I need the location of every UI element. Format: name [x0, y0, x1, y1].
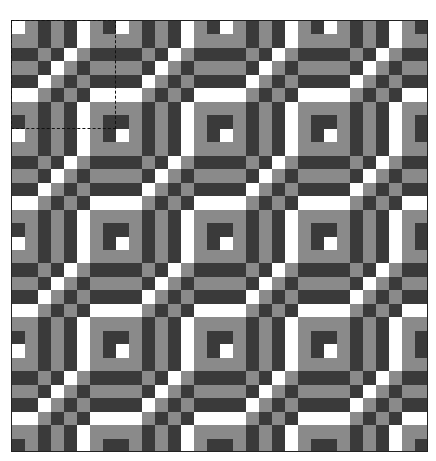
pattern-cell [337, 223, 350, 236]
pattern-cell [233, 277, 246, 290]
pattern-cell [337, 331, 350, 344]
pattern-cell [77, 169, 90, 182]
pattern-cell [64, 277, 77, 290]
pattern-cell [285, 331, 298, 344]
pattern-cell [142, 358, 155, 371]
pattern-cell [285, 290, 298, 303]
pattern-cell [116, 425, 129, 438]
pattern-cell [142, 304, 155, 317]
pattern-cell [246, 61, 259, 74]
pattern-cell [298, 223, 311, 236]
pattern-cell [337, 156, 350, 169]
pattern-cell [64, 237, 77, 250]
pattern-cell [233, 398, 246, 411]
pattern-cell [77, 331, 90, 344]
pattern-cell [376, 34, 389, 47]
pattern-cell [285, 169, 298, 182]
pattern-cell [311, 344, 324, 357]
pattern-cell [103, 290, 116, 303]
pattern-cell [51, 237, 64, 250]
pattern-cell [324, 304, 337, 317]
pattern-cell [324, 263, 337, 276]
pattern-cell [272, 48, 285, 61]
pattern-cell [233, 344, 246, 357]
pattern-cell [324, 48, 337, 61]
pattern-cell [415, 358, 428, 371]
pattern-cell [246, 317, 259, 330]
pattern-cell [259, 21, 272, 34]
pattern-cell [51, 371, 64, 384]
pattern-cell [25, 412, 38, 425]
pattern-cell [259, 331, 272, 344]
pattern-cell [376, 344, 389, 357]
pattern-cell [155, 183, 168, 196]
pattern-cell [233, 331, 246, 344]
pattern-cell [90, 210, 103, 223]
pattern-cell [220, 237, 233, 250]
pattern-cell [285, 183, 298, 196]
pattern-cell [77, 250, 90, 263]
pattern-cell [389, 237, 402, 250]
pattern-cell [129, 169, 142, 182]
pattern-cell [51, 183, 64, 196]
pattern-cell [259, 385, 272, 398]
pattern-cell [246, 196, 259, 209]
pattern-cell [25, 385, 38, 398]
pattern-cell [259, 290, 272, 303]
pattern-cell [25, 425, 38, 438]
pattern-cell [376, 21, 389, 34]
pattern-cell [220, 331, 233, 344]
pattern-cell [142, 183, 155, 196]
pattern-cell [363, 210, 376, 223]
pattern-cell [376, 75, 389, 88]
pattern-cell [64, 439, 77, 452]
pattern-cell [285, 223, 298, 236]
pattern-cell [194, 263, 207, 276]
pattern-cell [350, 21, 363, 34]
pattern-cell [311, 115, 324, 128]
pattern-cell [324, 210, 337, 223]
pattern-cell [12, 196, 25, 209]
pattern-cell [38, 156, 51, 169]
pattern-cell [402, 304, 415, 317]
pattern-cell [311, 129, 324, 142]
pattern-cell [77, 317, 90, 330]
pattern-cell [142, 61, 155, 74]
pattern-cell [402, 344, 415, 357]
pattern-cell [207, 156, 220, 169]
pattern-cell [285, 48, 298, 61]
pattern-cell [402, 412, 415, 425]
pattern-cell [12, 358, 25, 371]
pattern-cell [324, 277, 337, 290]
pattern-cell [116, 48, 129, 61]
pattern-cell [129, 439, 142, 452]
pattern-cell [350, 263, 363, 276]
pattern-cell [337, 183, 350, 196]
pattern-cell [168, 263, 181, 276]
pattern-cell [402, 75, 415, 88]
pattern-cell [38, 263, 51, 276]
pattern-cell [142, 385, 155, 398]
pattern-cell [194, 371, 207, 384]
pattern-cell [376, 210, 389, 223]
pattern-cell [129, 412, 142, 425]
pattern-cell [207, 237, 220, 250]
pattern-cell [233, 263, 246, 276]
tile-selection-marquee[interactable] [11, 20, 116, 129]
pattern-cell [220, 115, 233, 128]
pattern-cell [77, 398, 90, 411]
pattern-cell [194, 344, 207, 357]
pattern-cell [376, 250, 389, 263]
pattern-cell [402, 196, 415, 209]
pattern-cell [324, 371, 337, 384]
pattern-cell [220, 75, 233, 88]
pattern-cell [415, 263, 428, 276]
pattern-cell [376, 183, 389, 196]
pattern-cell [51, 142, 64, 155]
pattern-cell [298, 102, 311, 115]
pattern-cell [194, 196, 207, 209]
pattern-cell [194, 439, 207, 452]
pattern-cell [129, 385, 142, 398]
pattern-cell [272, 102, 285, 115]
pattern-cell [272, 129, 285, 142]
